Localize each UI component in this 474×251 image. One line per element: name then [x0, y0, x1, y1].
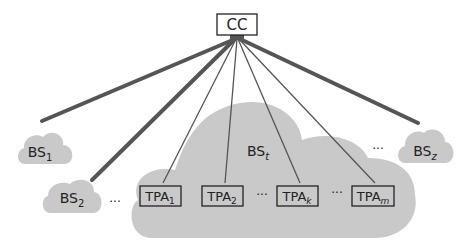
link-cc-bs1: [42, 39, 235, 121]
cc-node: CC: [217, 14, 257, 35]
cc-label: CC: [227, 16, 248, 34]
ellipsis-bs: ···: [109, 195, 120, 209]
cc-connector: [230, 35, 244, 40]
ellipsis-bs-z: ···: [372, 142, 383, 156]
ellipsis-tpa-2: ···: [331, 186, 342, 200]
ellipsis-tpa-1: ···: [256, 188, 267, 202]
network-diagram: CC BS1 BS2 BSt BSz TPA1 TPA2 TPAk TPAm ·…: [0, 0, 474, 251]
